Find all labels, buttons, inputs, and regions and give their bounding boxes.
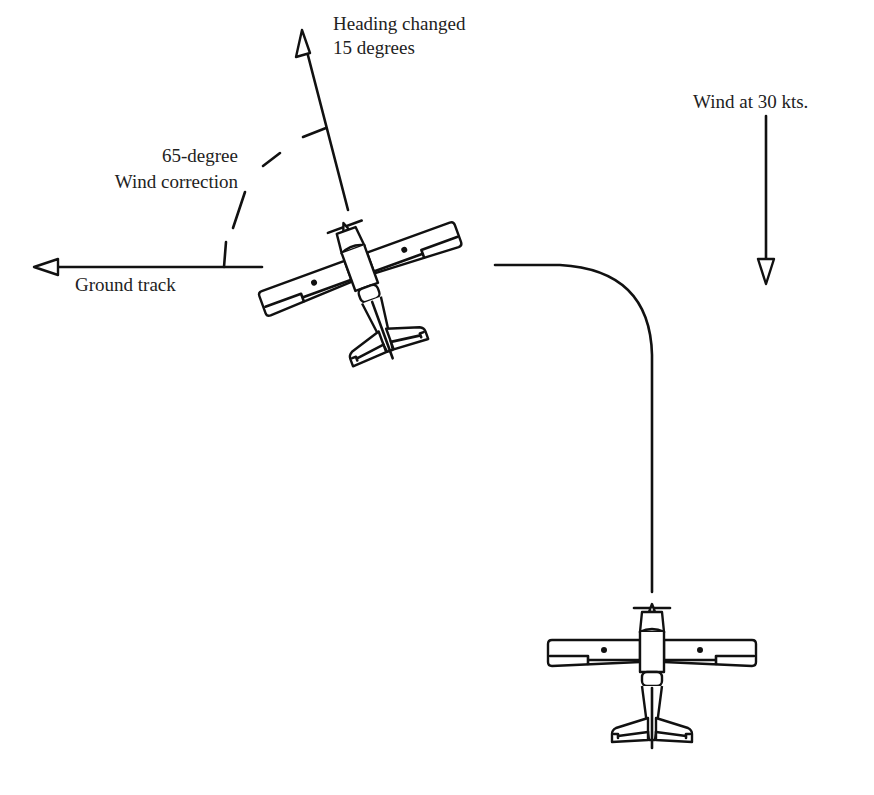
correction-label-line2: Wind correction [115, 171, 239, 192]
turn-path [495, 265, 652, 592]
airplane-corrected [246, 187, 491, 393]
airplane-initial [548, 604, 756, 748]
wind-arrow [758, 116, 774, 284]
ground-track-arrow [34, 242, 262, 275]
wind-label: Wind at 30 kts. [693, 91, 808, 112]
ground-track-label: Ground track [75, 274, 176, 295]
wind-correction-arc [233, 128, 326, 228]
correction-label-line1: 65-degree [162, 145, 238, 166]
heading-label-line1: Heading changed [333, 13, 466, 34]
heading-label-line2: 15 degrees [333, 37, 415, 58]
diagram-canvas: Heading changed 15 degrees 65-degree Win… [0, 0, 874, 795]
